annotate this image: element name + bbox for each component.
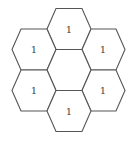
cell-label: 1 — [31, 44, 37, 55]
hex-cell-bottom: 1 — [47, 91, 91, 132]
cell-label: 1 — [100, 44, 106, 55]
cell-label: 1 — [66, 24, 72, 35]
cell-label: 1 — [31, 85, 37, 96]
cell-label: 1 — [66, 106, 72, 117]
hexagon-cluster: 1 1 1 1 1 1 — [0, 0, 136, 145]
cell-label: 1 — [100, 85, 106, 96]
